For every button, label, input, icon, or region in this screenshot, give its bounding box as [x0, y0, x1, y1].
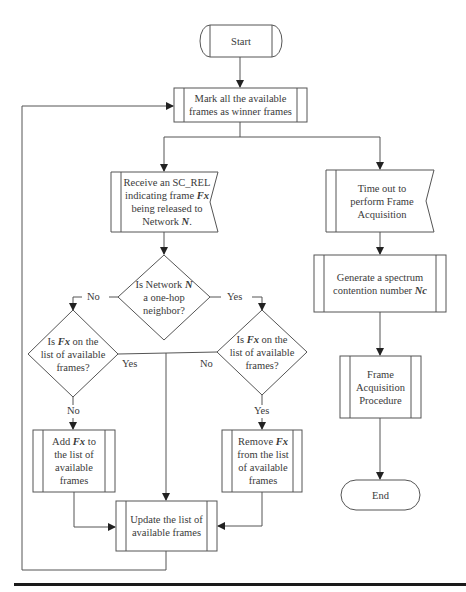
- var-fx: Fx: [276, 436, 288, 447]
- add-line2: the list of: [52, 448, 96, 461]
- gen-pre: contention number: [333, 285, 415, 296]
- update-node: Update the list of available frames: [126, 501, 207, 551]
- decision-left-line1: Is Fx on the: [41, 335, 106, 348]
- acq-line2: Acquisition: [356, 381, 405, 394]
- var-n: N: [185, 279, 193, 290]
- timeout-node: Time out to perform Frame Acquisition: [336, 170, 428, 232]
- timeout-line2: perform Frame: [350, 195, 413, 208]
- bottom-rule-divider: [14, 583, 466, 586]
- edge-label-neighbor-no: No: [86, 291, 101, 303]
- edge-label-right-yes: Yes: [253, 405, 270, 417]
- edge-label-left-yes: Yes: [121, 358, 138, 370]
- add-post: to: [85, 436, 96, 447]
- mark-line2: frames as winner frames: [189, 105, 292, 118]
- receive-line2-text: indicating frame: [125, 190, 197, 201]
- edge-label-left-no: No: [66, 405, 81, 417]
- receive-node: Receive an SC_REL indicating frame Fx be…: [121, 172, 213, 232]
- decision-right-line1: Is Fx on the: [230, 333, 295, 346]
- receive-line4-text: Network: [142, 216, 181, 227]
- update-line1: Update the list of: [130, 513, 203, 526]
- timeout-line1: Time out to: [350, 182, 413, 195]
- decision-neighbor-line1: Is Network N: [135, 278, 192, 291]
- decision-right-line2: list of available: [230, 346, 295, 359]
- generate-line1: Generate a spectrum: [333, 271, 427, 284]
- edge-label-right-no: No: [199, 358, 214, 370]
- remove-line2: from the list: [237, 448, 288, 461]
- var-nc: Nc: [415, 285, 427, 296]
- start-label: Start: [231, 35, 251, 48]
- remove-line3: of available: [237, 461, 288, 474]
- var-fx: Fx: [197, 190, 209, 201]
- dr-pre: Is: [236, 334, 246, 345]
- mark-line1: Mark all the available: [189, 92, 292, 105]
- remove-node: Remove Fx from the list of available fra…: [230, 430, 296, 492]
- add-node: Add Fx to the list of available frames: [43, 430, 105, 492]
- edge-label-neighbor-yes: Yes: [226, 291, 243, 303]
- decision-left-node: Is Fx on the list of available frames?: [28, 329, 118, 379]
- acquisition-node: Frame Acquisition Procedure: [350, 356, 411, 418]
- add-line4: frames: [52, 474, 96, 487]
- timeout-line3: Acquisition: [350, 208, 413, 221]
- var-fx: Fx: [58, 336, 70, 347]
- update-line2: available frames: [130, 526, 203, 539]
- remove-line4: frames: [237, 474, 288, 487]
- dl-pre: Is: [47, 336, 57, 347]
- end-node: End: [341, 480, 420, 510]
- receive-line3: being released to: [124, 202, 211, 215]
- receive-line4: Network N.: [124, 215, 211, 228]
- receive-line2: indicating frame Fx: [124, 189, 211, 202]
- decision-neighbor-line2: a one-hop: [135, 291, 192, 304]
- decision-left-line2: list of available: [41, 348, 106, 361]
- generate-node: Generate a spectrum contention number Nc: [324, 255, 436, 312]
- var-fx: Fx: [73, 436, 85, 447]
- dl-post: on the: [70, 336, 99, 347]
- mark-node: Mark all the available frames as winner …: [184, 88, 297, 122]
- decision-right-node: Is Fx on the list of available frames?: [217, 327, 307, 377]
- var-fx: Fx: [247, 334, 259, 345]
- dn-line1-text: Is Network: [135, 279, 185, 290]
- acq-line3: Procedure: [356, 394, 405, 407]
- start-node: Start: [210, 25, 272, 57]
- end-label: End: [372, 489, 389, 502]
- decision-neighbor-line3: neighbor?: [135, 304, 192, 317]
- decision-left-line3: frames?: [41, 361, 106, 374]
- decision-neighbor-node: Is Network N a one-hop neighbor?: [124, 272, 204, 322]
- receive-line4-post: .: [189, 216, 192, 227]
- add-pre: Add: [52, 436, 73, 447]
- remove-pre: Remove: [238, 436, 276, 447]
- add-line3: available: [52, 461, 96, 474]
- remove-line1: Remove Fx: [237, 435, 288, 448]
- decision-right-line3: frames?: [230, 359, 295, 372]
- add-line1: Add Fx to: [52, 435, 96, 448]
- generate-line2: contention number Nc: [333, 284, 427, 297]
- dr-post: on the: [259, 334, 288, 345]
- acq-line1: Frame: [356, 368, 405, 381]
- receive-line1: Receive an SC_REL: [124, 176, 211, 189]
